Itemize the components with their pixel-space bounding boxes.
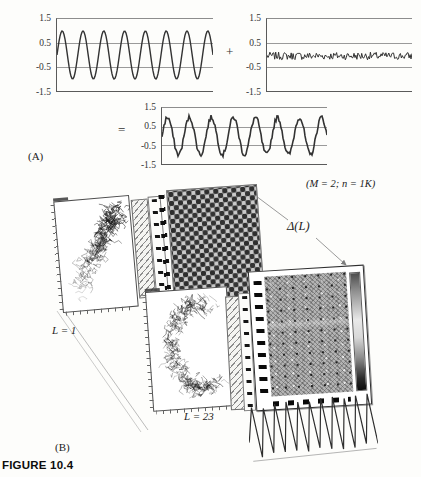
noisy-sine-waveform bbox=[162, 108, 327, 164]
ytick: 1.5 bbox=[144, 102, 156, 112]
ytick: -1.5 bbox=[36, 87, 51, 97]
noise-plot-area bbox=[266, 18, 412, 92]
triangle-wave bbox=[245, 387, 379, 466]
ytick: -0.5 bbox=[36, 62, 51, 72]
equals-operator: = bbox=[118, 122, 125, 138]
noise-waveform bbox=[267, 19, 412, 91]
y-axis-tick-labels: 1.5 0.5 -0.5 -1.5 bbox=[133, 107, 159, 165]
ytick: 0.5 bbox=[39, 38, 51, 48]
noise-plot: 1.5 0.5 -0.5 -1.5 bbox=[238, 18, 412, 92]
ytick: 0.5 bbox=[144, 121, 156, 131]
ytick: 1.5 bbox=[249, 13, 261, 23]
panel-a-label: (A) bbox=[28, 150, 43, 162]
ytick: 0.5 bbox=[249, 38, 261, 48]
scatter-cloud-l1 bbox=[54, 196, 137, 312]
y-axis-tick-labels: 1.5 0.5 -0.5 -1.5 bbox=[28, 18, 54, 92]
parameters-label: (M = 2; n = 1K) bbox=[306, 178, 375, 189]
figure-page: 1.5 0.5 -0.5 -1.5 + 1.5 0.5 -0.5 -1.5 = … bbox=[0, 0, 421, 477]
panel-b-label: (B) bbox=[55, 441, 70, 453]
scatter-cloud-l23 bbox=[146, 287, 234, 410]
clean-sine-waveform bbox=[57, 19, 213, 91]
phase-portrait-l1 bbox=[53, 195, 138, 313]
ytick: 1.5 bbox=[39, 13, 51, 23]
ytick: -0.5 bbox=[141, 141, 156, 151]
ytick: -1.5 bbox=[141, 160, 156, 170]
y-axis-tick-labels: 1.5 0.5 -0.5 -1.5 bbox=[238, 18, 264, 92]
l1-label: L = 1 bbox=[52, 324, 76, 336]
clean-sine-plot: 1.5 0.5 -0.5 -1.5 bbox=[28, 18, 213, 92]
plus-operator: + bbox=[226, 44, 233, 60]
noisy-sine-plot: 1.5 0.5 -0.5 -1.5 bbox=[133, 107, 327, 165]
delta-l-label: Δ(L) bbox=[287, 219, 310, 234]
clean-sine-plot-area bbox=[56, 18, 213, 92]
grain-texture bbox=[264, 272, 353, 397]
ytick: -0.5 bbox=[246, 62, 261, 72]
phase-portrait-l23 bbox=[145, 286, 235, 411]
l23-label: L = 23 bbox=[184, 410, 214, 422]
noisy-sine-plot-area bbox=[161, 107, 327, 165]
figure-caption: FIGURE 10.4 bbox=[2, 459, 73, 471]
ytick: -1.5 bbox=[246, 87, 261, 97]
